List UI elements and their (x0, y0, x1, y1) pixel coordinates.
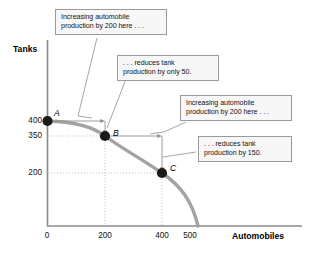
callout-2-line-1: . . . reduces tank (123, 59, 214, 68)
arrow-bc-horizontal-head (157, 134, 162, 138)
x-tick-label-0: 0 (37, 231, 57, 240)
arrow-ab-horizontal-head (100, 119, 105, 123)
callout-1-line-2: production by 200 here . . . (61, 22, 162, 31)
leader-line-callout-2 (107, 79, 126, 128)
callout-reduces-tank-only-50: . . . reduces tank production by only 50… (117, 55, 219, 81)
callout-increasing-automobile-a-to-b: Increasing automobile production by 200 … (55, 9, 167, 35)
point-label-c: C (170, 163, 176, 173)
leader-line-callout-1 (78, 38, 97, 118)
ppf-curve (48, 121, 199, 226)
callout-3-line-1: Increasing automobile (186, 99, 287, 108)
y-tick-label-400: 400 (12, 116, 42, 125)
point-label-b: B (113, 128, 119, 138)
data-point-a[interactable] (42, 116, 52, 126)
callout-reduces-tank-150: . . . reduces tank production by 150. (198, 136, 292, 162)
data-point-b[interactable] (100, 131, 110, 141)
x-axis-title: Automobiles (232, 231, 284, 241)
callout-4-line-2: production by 150. (204, 149, 287, 158)
chart-canvas (0, 0, 310, 254)
leader-line-callout-4 (163, 152, 196, 157)
y-tick-label-350: 350 (12, 131, 42, 140)
y-axis-title: Tanks (13, 44, 37, 54)
point-label-a: A (54, 108, 60, 118)
x-tick-label-500: 500 (177, 231, 203, 240)
y-tick-label-200: 200 (12, 168, 42, 177)
callout-increasing-automobile-b-to-c: Increasing automobile production by 200 … (180, 95, 292, 121)
callout-1-line-1: Increasing automobile (61, 13, 162, 22)
callout-4-line-1: . . . reduces tank (204, 140, 287, 149)
ppf-chart-figure: Tanks Automobiles 400 350 200 0 200 400 … (0, 0, 310, 254)
leader-line-callout-3 (150, 122, 186, 134)
callout-3-line-2: production by 200 here . . . (186, 108, 287, 117)
x-tick-label-400: 400 (149, 231, 175, 240)
callout-2-line-2: production by only 50. (123, 68, 214, 77)
x-tick-label-200: 200 (92, 231, 118, 240)
data-point-c[interactable] (157, 168, 167, 178)
